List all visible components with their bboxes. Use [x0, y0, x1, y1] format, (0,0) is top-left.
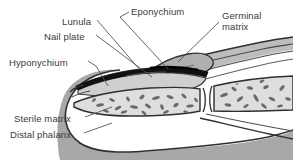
leader-distal-phalanx: [84, 123, 112, 133]
label-sterile-matrix: Sterile matrix: [14, 113, 71, 124]
label-germinal-matrix: Germinal: [222, 10, 261, 21]
leader-lunula: [97, 20, 140, 70]
label-eponychium: Eponychium: [131, 6, 184, 17]
label-germinal-matrix-line2: matrix: [222, 21, 248, 32]
label-distal-phalanx: Distal phalanx: [10, 129, 71, 140]
volar-skin-lines: [200, 114, 293, 139]
leader-eponychium: [120, 12, 168, 69]
label-hyponychium: Hyponychium: [9, 57, 68, 68]
figure-canvas: Lunula Eponychium Germinal matrix Nail p…: [0, 0, 293, 160]
label-lunula: Lunula: [62, 16, 91, 27]
joint-and-middle-phalanx: [203, 76, 293, 112]
label-nail-plate: Nail plate: [44, 31, 85, 42]
